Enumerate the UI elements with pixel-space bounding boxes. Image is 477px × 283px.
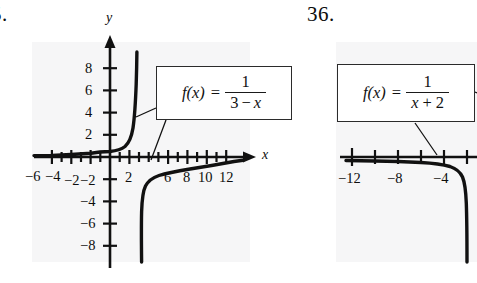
x-tick-label-right-neg4: −4	[433, 170, 448, 187]
denominator-term-a-right: x	[411, 93, 418, 112]
x-tick-label-right-neg8: −8	[387, 170, 402, 187]
formula-equals-right: =	[392, 85, 401, 102]
formula-fraction-right: 1 x+2	[406, 74, 449, 112]
denominator-operator-right: +	[422, 93, 431, 112]
formula-function-name-right: f(x)	[363, 85, 386, 102]
formula-numerator-right: 1	[418, 74, 436, 92]
formula-denominator-right: x+2	[406, 93, 449, 112]
denominator-term-b-right: 2	[436, 93, 444, 112]
graph-right	[0, 0, 477, 283]
figure-page: 5. 36.	[0, 0, 477, 283]
formula-right: f(x) = 1 x+2	[363, 74, 449, 112]
formula-box-right: f(x) = 1 x+2	[337, 64, 475, 122]
curve-right-panel-branch	[346, 161, 467, 263]
leader-line-right-lower	[415, 123, 437, 155]
x-tick-label-right-neg12: −12	[338, 170, 361, 187]
